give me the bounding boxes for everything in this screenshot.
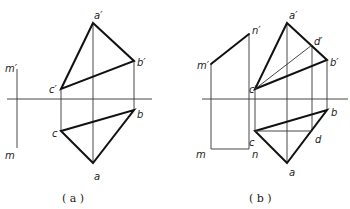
label-c: c bbox=[249, 137, 255, 148]
label-c-prime: c′ bbox=[49, 84, 57, 95]
label-d-prime: d′ bbox=[314, 36, 323, 47]
label-b: b bbox=[137, 109, 143, 120]
label-m: m bbox=[5, 150, 15, 161]
triangle-front-view bbox=[255, 23, 327, 89]
caption-b: ( b ) bbox=[249, 192, 272, 205]
label-c-prime: c′ bbox=[249, 84, 257, 95]
label-n-prime: n′ bbox=[252, 25, 261, 36]
line-cd-front-view bbox=[255, 45, 312, 89]
label-m-prime: m′ bbox=[5, 63, 18, 74]
label-n: n bbox=[252, 149, 258, 160]
label-a: a bbox=[289, 167, 295, 178]
triangle-top-view bbox=[61, 110, 134, 163]
label-b: b bbox=[331, 107, 337, 118]
label-c: c bbox=[52, 128, 58, 139]
label-d: d bbox=[315, 134, 322, 145]
line-mn-front-view bbox=[211, 34, 249, 64]
caption-a: ( a ) bbox=[62, 192, 84, 205]
projection-diagram: m′ a′ b′ c′ m c b a ( a ) m′ n′ a′ d′ b′… bbox=[0, 0, 350, 209]
label-b-prime: b′ bbox=[330, 57, 339, 68]
label-m: m bbox=[196, 149, 206, 160]
label-b-prime: b′ bbox=[137, 57, 146, 68]
figure-b: m′ n′ a′ d′ b′ c′ m n c b d a ( b ) bbox=[196, 10, 348, 205]
triangle-front-view bbox=[61, 23, 134, 89]
diagram-svg: m′ a′ b′ c′ m c b a ( a ) m′ n′ a′ d′ b′… bbox=[0, 0, 350, 209]
label-m-prime: m′ bbox=[197, 60, 210, 71]
label-a: a bbox=[94, 171, 100, 182]
label-a-prime: a′ bbox=[289, 10, 298, 21]
figure-a: m′ a′ b′ c′ m c b a ( a ) bbox=[5, 10, 152, 205]
label-a-prime: a′ bbox=[94, 10, 103, 21]
